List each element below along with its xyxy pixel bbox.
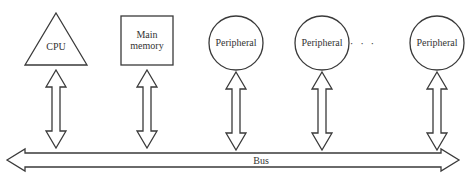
peripheral-node-n: Peripheral [410,16,464,70]
bus-diagram: CPU Main memory Peripheral Peripheral · … [0,0,467,179]
bus-double-arrow-icon [7,149,459,171]
peripheral-label-n: Peripheral [416,37,457,48]
ellipsis: · · · [350,37,377,49]
bus: Bus [7,149,459,171]
peripheral-2-bus-arrow-icon [312,72,332,150]
peripheral-node-1: Peripheral [209,16,263,70]
cpu-label: CPU [46,41,66,52]
bus-label: Bus [253,155,269,166]
cpu-node: CPU [25,13,87,65]
triangle-shape [25,13,87,65]
cpu-bus-arrow-icon [46,70,66,148]
main-memory-label-line1: Main [136,29,157,40]
main-memory-label-line2: memory [130,40,163,51]
peripheral-1-bus-arrow-icon [226,72,246,150]
main-memory-node: Main memory [121,16,173,65]
memory-bus-arrow-icon [137,70,157,148]
peripheral-label-1: Peripheral [215,37,256,48]
peripheral-n-bus-arrow-icon [427,72,447,150]
peripheral-node-2: Peripheral [295,16,349,70]
peripheral-label-2: Peripheral [301,37,342,48]
